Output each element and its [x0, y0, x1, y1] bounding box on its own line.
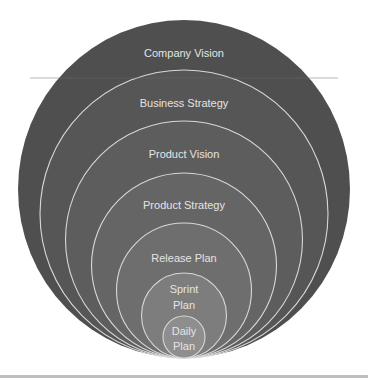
level-label: Plan — [173, 299, 195, 311]
level-label: Daily — [172, 325, 197, 337]
level-label: Company Vision — [144, 47, 224, 59]
level-label: Release Plan — [151, 252, 216, 264]
level-label: Sprint — [170, 283, 199, 295]
level-label: Business Strategy — [140, 97, 229, 109]
level-label: Product Strategy — [143, 199, 225, 211]
level-label: Product Vision — [149, 148, 220, 160]
nested-planning-diagram: Company VisionBusiness StrategyProduct V… — [0, 0, 368, 379]
bottom-divider — [0, 375, 368, 378]
level-label: Plan — [173, 340, 195, 352]
